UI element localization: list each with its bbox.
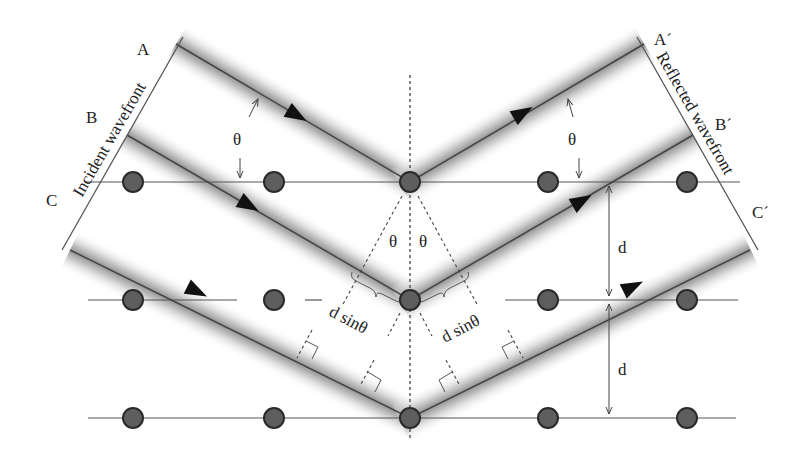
atom [400,172,420,192]
bragg-diagram: A B C A´ B´ C´ Incident wavefront Reflec… [0,0,810,459]
atom [538,172,558,192]
theta-label-right-top: θ [568,130,576,149]
labels: A B C A´ B´ C´ Incident wavefront Reflec… [46,30,769,379]
atom [400,290,420,310]
label-B: B [86,108,97,127]
d-sin-theta-left: d sinθ [326,302,371,338]
atom [538,290,558,310]
atom [123,172,143,192]
label-A: A [137,40,150,59]
label-A-prime: A´ [654,30,672,49]
atom [677,408,697,428]
atom [677,290,697,310]
theta-label-center-left: θ [389,232,397,251]
theta-label-center-right: θ [419,232,427,251]
atom [538,408,558,428]
d-label-lower: d [618,360,627,379]
theta-label-left-top: θ [233,130,241,149]
atom [400,408,420,428]
label-C-prime: C´ [752,203,769,222]
atom [264,290,284,310]
atom [677,172,697,192]
atom [264,408,284,428]
d-sin-theta-right: d sinθ [438,311,483,347]
d-label-upper: d [618,238,627,257]
label-C: C [46,191,57,210]
atom [264,172,284,192]
atom [123,408,143,428]
atom [123,290,143,310]
